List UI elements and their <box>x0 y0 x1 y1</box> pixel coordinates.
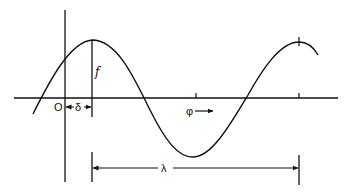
origin-label: O <box>54 101 63 113</box>
phase-shift-label: δ <box>75 101 81 113</box>
direction-label: φ <box>186 105 193 117</box>
amplitude-label: f <box>94 65 102 79</box>
wave-diagram: f O δ φ λ <box>0 0 344 192</box>
wavelength-label: λ <box>161 162 167 174</box>
